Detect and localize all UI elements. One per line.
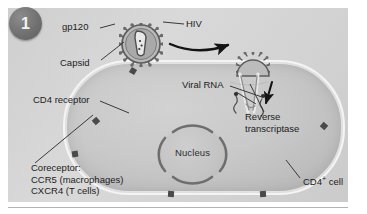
label-coreceptor: Coreceptor: CCR5 (macrophages) CXCR4 (T … xyxy=(31,162,161,197)
label-reverse-transcriptase-line2: transcriptase xyxy=(245,123,299,134)
membrane-receptor-icon xyxy=(168,191,174,197)
label-capsid: Capsid xyxy=(60,57,90,69)
label-reverse-transcriptase-line1: Reverse xyxy=(245,111,280,122)
nucleus-label: Nucleus xyxy=(160,147,225,158)
label-reverse-transcriptase: Reverse transcriptase xyxy=(245,111,325,134)
label-gp120: gp120 xyxy=(62,21,88,33)
label-coreceptor-line3: CXCR4 (T cells) xyxy=(31,185,99,196)
hiv-virion-icon xyxy=(119,23,163,67)
label-viral-rna: Viral RNA xyxy=(182,79,224,91)
label-cd4-receptor: CD4 receptor xyxy=(33,94,90,106)
figure-panel: Nucleus xyxy=(0,0,367,214)
label-cd4-cell-tail: cell xyxy=(326,176,343,187)
label-cd4-cell-text: CD4 xyxy=(303,176,322,187)
membrane-receptor-icon xyxy=(260,191,266,197)
label-cd4-cell: CD4+ cell xyxy=(303,173,343,188)
label-coreceptor-line1: Coreceptor: xyxy=(31,162,81,173)
membrane-receptor-icon xyxy=(72,151,79,158)
label-hiv: HIV xyxy=(186,18,202,30)
bottom-divider xyxy=(8,207,348,208)
label-coreceptor-line2: CCR5 (macrophages) xyxy=(31,174,123,185)
hiv-virion-fusing-icon xyxy=(236,52,270,82)
step-number-badge: 1 xyxy=(9,7,42,40)
